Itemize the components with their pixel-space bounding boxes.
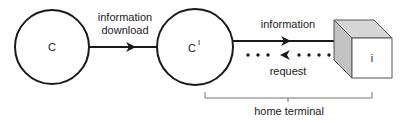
edge-label-information: information	[98, 11, 152, 23]
edge-request: request	[246, 50, 330, 77]
edge-label-download: download	[101, 24, 148, 36]
home-terminal-bracket: home terminal	[205, 92, 372, 117]
node-c-prime-superscript: I	[198, 38, 200, 47]
node-c-label: C	[48, 41, 56, 53]
diagram-canvas: C information download C I information r…	[0, 0, 406, 123]
node-c: C	[15, 10, 89, 84]
edge-information: information	[233, 18, 335, 46]
edge-label-information-2: information	[261, 18, 315, 30]
edge-information-download: information download	[89, 11, 157, 52]
node-c-prime-label: C	[188, 42, 196, 54]
arrow-left-icon	[280, 50, 290, 60]
terminal-cube-label: i	[371, 52, 373, 64]
terminal-cube: i	[334, 20, 392, 78]
edge-label-request: request	[270, 65, 307, 77]
node-c-prime: C I	[157, 9, 233, 85]
bracket-label-home-terminal: home terminal	[254, 105, 324, 117]
